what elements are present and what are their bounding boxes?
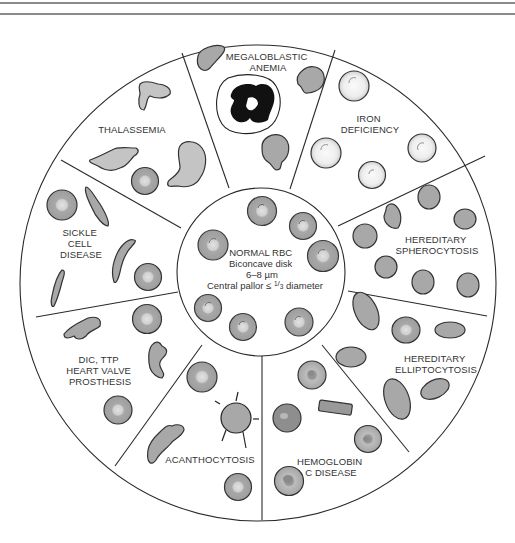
center-label-line-1: NORMAL RBC [229, 247, 292, 258]
rbc-morphology-diagram: NORMAL RBC Biconcave disk 6–8 µm Central… [0, 0, 515, 543]
segment-label: ACANTHOCYTOSIS [165, 454, 254, 465]
rbc [104, 396, 132, 424]
segment-label: HEREDITARY ELLIPTOCYTOSIS [395, 353, 477, 375]
rbc [135, 264, 162, 291]
rbc [133, 305, 162, 334]
rbc [225, 474, 252, 501]
segment-label: THALASSEMIA [98, 124, 166, 135]
center-label-line-4: Central pallor ≤ 1/3 diameter [207, 279, 323, 291]
center-label-line-2: Biconcave disk [229, 258, 293, 269]
center-label-line-3: 6–8 µm [246, 269, 278, 280]
rbc [47, 190, 77, 220]
microcyte [132, 168, 159, 195]
segment-label: HEMOGLOBIN C DISEASE [297, 456, 365, 478]
segment-label: HEREDITARY SPHEROCYTOSIS [396, 234, 479, 256]
rbc [187, 362, 217, 392]
